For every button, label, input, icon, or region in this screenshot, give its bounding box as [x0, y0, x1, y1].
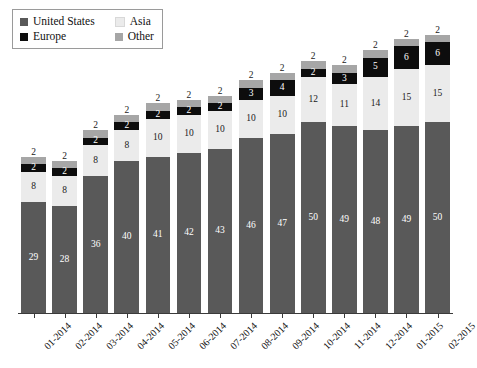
bar-segment-other[interactable]: 2 — [270, 73, 295, 81]
bar-column[interactable]: 231046 — [236, 8, 267, 313]
bar-segment-europe[interactable]: 2 — [114, 122, 139, 130]
bar-segment-united-states[interactable]: 48 — [363, 130, 388, 313]
bar-segment-value: 6 — [435, 49, 440, 59]
legend-item-asia[interactable]: Asia — [115, 14, 154, 29]
bar-segment-value: 29 — [29, 253, 39, 263]
x-axis-label-cell: 09-2014 — [267, 318, 298, 366]
bar-segment-asia[interactable]: 15 — [425, 65, 450, 122]
bar-segment-asia[interactable]: 8 — [83, 145, 108, 176]
bar-segment-europe[interactable]: 5 — [363, 58, 388, 77]
bar-column[interactable]: 22829 — [18, 8, 49, 313]
legend-swatch-united-states-icon — [20, 18, 28, 26]
bar-segment-united-states[interactable]: 50 — [301, 122, 326, 313]
bar-column[interactable]: 221250 — [298, 8, 329, 313]
bar-segment-united-states[interactable]: 46 — [239, 138, 264, 313]
bar-segment-value: 2 — [31, 148, 36, 158]
bar-segment-europe[interactable]: 2 — [301, 69, 326, 77]
bar-segment-europe[interactable]: 2 — [52, 168, 77, 176]
bar-segment-europe[interactable]: 2 — [21, 164, 46, 172]
bar-segment-value: 50 — [308, 213, 318, 223]
bar-column[interactable]: 261549 — [391, 8, 422, 313]
bar-stack: 241047 — [270, 8, 295, 313]
bar-stack: 261550 — [425, 8, 450, 313]
bar-segment-other[interactable]: 2 — [208, 96, 233, 104]
bar-segment-asia[interactable]: 8 — [21, 172, 46, 203]
bar-column[interactable]: 22836 — [80, 8, 111, 313]
bar-segment-value: 8 — [93, 156, 98, 166]
bar-segment-other[interactable]: 2 — [21, 157, 46, 165]
bar-segment-other[interactable]: 2 — [52, 161, 77, 169]
bar-column[interactable]: 251448 — [360, 8, 391, 313]
bar-segment-europe[interactable]: 2 — [208, 103, 233, 111]
bar-segment-other[interactable]: 2 — [363, 50, 388, 58]
bar-segment-europe[interactable]: 2 — [177, 107, 202, 115]
bar-segment-value: 2 — [435, 26, 440, 36]
bar-segment-europe[interactable]: 3 — [332, 73, 357, 84]
bar-segment-asia[interactable]: 10 — [270, 96, 295, 134]
bar-segment-europe[interactable]: 2 — [83, 138, 108, 146]
legend-item-other[interactable]: Other — [115, 29, 154, 44]
bar-segment-united-states[interactable]: 41 — [146, 157, 171, 313]
bar-segment-united-states[interactable]: 47 — [270, 134, 295, 313]
bar-column[interactable]: 221041 — [142, 8, 173, 313]
bar-segment-united-states[interactable]: 49 — [332, 126, 357, 313]
bar-segment-other[interactable]: 2 — [83, 130, 108, 138]
legend-item-europe[interactable]: Europe — [20, 29, 95, 44]
bar-segment-europe[interactable]: 3 — [239, 88, 264, 99]
bar-segment-europe[interactable]: 6 — [394, 46, 419, 69]
bar-segment-other[interactable]: 2 — [394, 39, 419, 47]
bar-segment-value: 10 — [184, 129, 194, 139]
x-axis-label-cell: 05-2014 — [142, 318, 173, 366]
chart-legend: United States Asia Europe Other — [12, 9, 163, 49]
bar-segment-asia[interactable]: 14 — [363, 77, 388, 130]
bar-segment-value: 15 — [402, 93, 412, 103]
bar-column[interactable]: 221042 — [173, 8, 204, 313]
bar-column[interactable]: 22828 — [49, 8, 80, 313]
bar-segment-asia[interactable]: 10 — [177, 115, 202, 153]
bar-group: 2282922828228362284022104122104222104323… — [18, 8, 453, 313]
bar-stack: 231046 — [239, 8, 264, 313]
bar-segment-europe[interactable]: 6 — [425, 42, 450, 65]
bar-segment-value: 50 — [433, 213, 443, 223]
bar-column[interactable]: 231149 — [329, 8, 360, 313]
bar-segment-value: 41 — [153, 230, 163, 240]
x-axis-labels: 01-201402-201403-201404-201405-201406-20… — [18, 318, 453, 366]
bar-segment-asia[interactable]: 15 — [394, 69, 419, 126]
bar-segment-value: 47 — [277, 219, 287, 229]
bar-segment-value: 15 — [433, 89, 443, 99]
bar-segment-value: 10 — [246, 114, 256, 124]
bar-segment-asia[interactable]: 8 — [114, 130, 139, 161]
legend-label-united-states: United States — [33, 14, 95, 29]
bar-segment-value: 14 — [371, 99, 381, 109]
bar-column[interactable]: 261550 — [422, 8, 453, 313]
bar-segment-united-states[interactable]: 36 — [83, 176, 108, 313]
bar-segment-united-states[interactable]: 43 — [208, 149, 233, 313]
bar-segment-united-states[interactable]: 40 — [114, 161, 139, 314]
bar-segment-other[interactable]: 2 — [239, 80, 264, 88]
bar-column[interactable]: 221043 — [204, 8, 235, 313]
bar-segment-other[interactable]: 2 — [146, 103, 171, 111]
bar-segment-asia[interactable]: 12 — [301, 77, 326, 123]
bar-segment-other[interactable]: 2 — [301, 61, 326, 69]
bar-segment-united-states[interactable]: 42 — [177, 153, 202, 313]
bar-segment-other[interactable]: 2 — [332, 65, 357, 73]
bar-segment-united-states[interactable]: 50 — [425, 122, 450, 313]
bar-segment-value: 2 — [187, 91, 192, 101]
bar-segment-asia[interactable]: 11 — [332, 84, 357, 126]
legend-item-united-states[interactable]: United States — [20, 14, 95, 29]
bar-segment-other[interactable]: 2 — [177, 100, 202, 108]
bar-segment-europe[interactable]: 4 — [270, 80, 295, 95]
bar-segment-asia[interactable]: 10 — [239, 100, 264, 138]
bar-segment-asia[interactable]: 10 — [208, 111, 233, 149]
bar-segment-asia[interactable]: 8 — [52, 176, 77, 207]
bar-segment-asia[interactable]: 10 — [146, 119, 171, 157]
bar-segment-united-states[interactable]: 49 — [394, 126, 419, 313]
bar-segment-united-states[interactable]: 29 — [21, 202, 46, 313]
bar-segment-other[interactable]: 2 — [425, 35, 450, 43]
bar-column[interactable]: 22840 — [111, 8, 142, 313]
x-axis-label-cell: 08-2014 — [236, 318, 267, 366]
bar-segment-europe[interactable]: 2 — [146, 111, 171, 119]
bar-column[interactable]: 241047 — [267, 8, 298, 313]
bar-segment-other[interactable]: 2 — [114, 115, 139, 123]
bar-segment-united-states[interactable]: 28 — [52, 206, 77, 313]
